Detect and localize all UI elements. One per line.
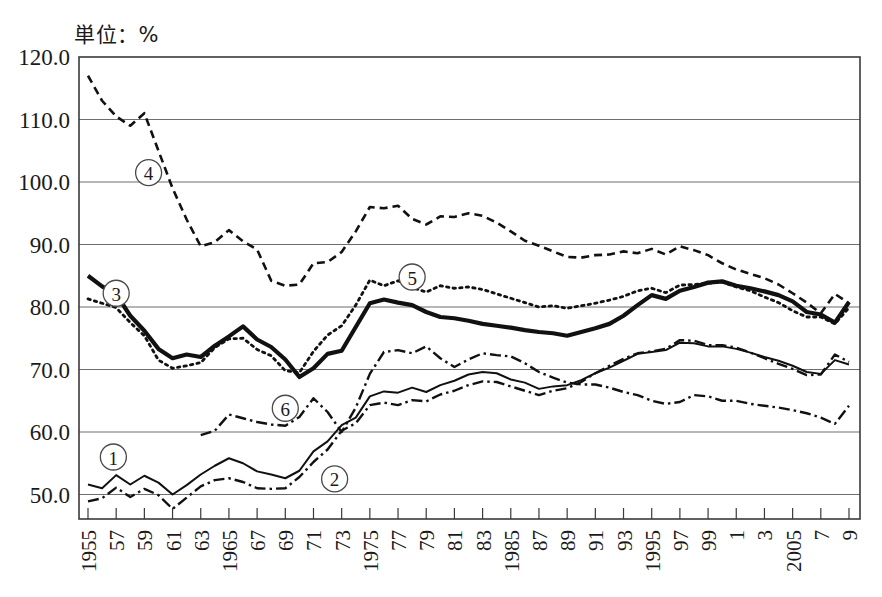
svg-text:5: 5 [407, 268, 417, 289]
x-axis-tick-label: 81 [443, 530, 467, 551]
y-axis-tick-label: 80.0 [30, 295, 70, 320]
x-axis-tick-label: 99 [697, 530, 721, 551]
x-axis-tick-label: 93 [613, 530, 637, 551]
y-axis-tick-label: 60.0 [30, 420, 70, 445]
x-axis-tick-label: 79 [415, 530, 439, 551]
y-axis-tick-label: 90.0 [30, 233, 70, 258]
series-marker-5: 5 [399, 264, 425, 290]
x-axis-tick-label: 59 [133, 530, 157, 551]
series-line-2 [88, 340, 849, 509]
x-axis-tick-label: 1985 [500, 530, 524, 572]
x-axis-tick-label: 1955 [77, 530, 101, 572]
series-line-5 [88, 280, 849, 373]
gridlines [79, 120, 860, 495]
x-axis-tick-label: 57 [105, 530, 129, 551]
y-axis-tick-label: 50.0 [30, 483, 70, 508]
x-axis-tick-label: 91 [584, 530, 608, 551]
series-marker-1: 1 [100, 444, 126, 470]
x-axis-tick-label: 61 [162, 530, 186, 551]
x-axis-tick-label: 1975 [359, 530, 383, 572]
x-axis-tick-label: 3 [753, 530, 777, 541]
series-markers: 123456 [100, 160, 425, 492]
x-axis-tick-label: 63 [190, 530, 214, 551]
y-axis-tick-label: 100.0 [18, 170, 70, 195]
series-marker-2: 2 [322, 466, 348, 492]
svg-text:4: 4 [144, 163, 154, 184]
x-axis-tick-label: 9 [838, 530, 862, 541]
x-axis-tick-label: 1 [725, 530, 749, 541]
x-axis-tick-label: 89 [556, 530, 580, 551]
x-axis-tick-label: 69 [274, 530, 298, 551]
svg-text:3: 3 [111, 284, 121, 305]
y-axis-tick-label: 70.0 [30, 358, 70, 383]
series-marker-3: 3 [103, 280, 129, 306]
x-axis-tick-label: 87 [528, 530, 552, 551]
x-axis-labels: 1955575961631965676971731975777981831985… [77, 508, 862, 572]
x-axis-tick-label: 97 [669, 530, 693, 551]
series-line-4 [88, 76, 849, 314]
svg-text:1: 1 [109, 448, 119, 469]
x-axis-tick-label: 67 [246, 530, 270, 551]
x-axis-tick-label: 2005 [782, 530, 806, 572]
chart-figure: 単位：% 120.0110.0100.090.080.070.060.050.0… [0, 0, 882, 597]
svg-text:6: 6 [281, 399, 291, 420]
x-axis-tick-label: 1965 [218, 530, 242, 572]
x-axis-tick-label: 73 [331, 530, 355, 551]
y-axis-tick-label: 110.0 [19, 108, 70, 133]
y-axis-labels: 120.0110.0100.090.080.070.060.050.0 [18, 45, 70, 508]
series-marker-6: 6 [272, 395, 298, 421]
line-chart: 120.0110.0100.090.080.070.060.050.0 1955… [0, 0, 882, 597]
series-line-1 [88, 343, 849, 495]
series-marker-4: 4 [136, 160, 162, 186]
series-lines [88, 76, 849, 509]
svg-text:2: 2 [330, 469, 340, 490]
y-axis-tick-label: 120.0 [18, 45, 70, 70]
x-axis-tick-label: 83 [472, 530, 496, 551]
x-axis-tick-label: 77 [387, 530, 411, 551]
x-axis-tick-label: 7 [810, 530, 834, 541]
x-axis-tick-label: 71 [302, 530, 326, 551]
x-axis-tick-label: 1995 [641, 530, 665, 572]
